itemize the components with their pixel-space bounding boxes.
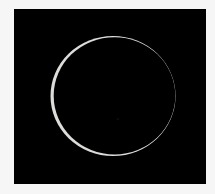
eclipse-ring (14, 9, 206, 184)
eclipse-photo (14, 9, 206, 184)
